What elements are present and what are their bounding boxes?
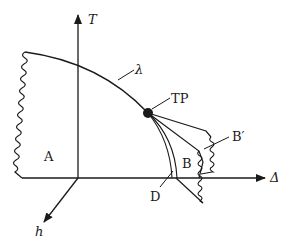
wing-b-prime-wavy-edge — [201, 137, 214, 174]
tp-label: TP — [171, 91, 189, 106]
h-axis-label: h — [35, 224, 43, 239]
lambda-line — [25, 52, 148, 113]
wing-b-wavy-edge — [198, 151, 203, 203]
tricritical-point-marker — [143, 108, 153, 118]
region-b-prime-label: B′ — [232, 129, 245, 144]
region-b-label: B — [182, 156, 192, 171]
first-order-line-d-outer — [148, 113, 172, 178]
lambda-label: λ — [134, 62, 143, 77]
wing-b-prime-edge — [148, 113, 211, 137]
b-prime-leader-line — [204, 137, 229, 149]
phase-diagram: T Δ h λ TP A B B′ D — [0, 0, 296, 245]
first-order-line-d-inner — [148, 113, 177, 178]
region-a-label: A — [43, 149, 54, 164]
lambda-leader-line — [118, 70, 134, 80]
delta-axis-label: Δ — [269, 170, 279, 185]
line-d-label: D — [150, 189, 160, 204]
tp-leader-line — [152, 98, 170, 109]
h-axis — [44, 178, 78, 222]
region-a-wavy-edge — [14, 52, 28, 178]
wing-b-edge — [148, 113, 203, 178]
t-axis-label: T — [88, 12, 98, 27]
d-leader-line — [160, 171, 173, 187]
